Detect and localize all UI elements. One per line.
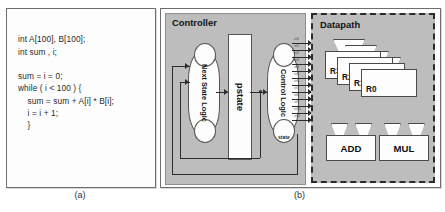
- next-state-logic-block: Next State Logic: [188, 50, 220, 136]
- wire-status-from-datapath: [297, 134, 298, 174]
- wire-feedback-inner-up: [180, 82, 181, 158]
- control-logic-label: Control Logic: [279, 69, 288, 117]
- control-signal-label: ctrl4: [294, 66, 299, 69]
- control-signal-label: ctrl7: [294, 87, 299, 90]
- source-code-listing: int A[100], B[100]; int sum , i; sum = i…: [18, 33, 114, 131]
- arrow-pstate-to-control: [263, 89, 267, 95]
- state-signal-label: state: [278, 134, 290, 140]
- arrow-feedback-outer: [185, 63, 189, 69]
- control-signal-label: ctrl5: [294, 73, 299, 76]
- functional-unit-add: ADD: [326, 135, 376, 161]
- control-signal-label: ctrl9: [294, 101, 299, 104]
- control-signal-label: ctrl0: [294, 38, 299, 41]
- caption-b: (b): [160, 190, 439, 200]
- datapath-title: Datapath: [320, 19, 360, 30]
- control-signal-label: ctrl10: [294, 108, 300, 111]
- figure-container: int A[100], B[100]; int sum , i; sum = i…: [0, 0, 445, 212]
- control-signal-label: ctrl3: [294, 59, 299, 62]
- caption-a: (a): [6, 190, 154, 200]
- pstate-label: pstate: [235, 83, 246, 111]
- control-signal-label: ctrl1: [294, 45, 299, 48]
- wire-feedback-outer-up: [172, 66, 173, 174]
- arrow-nextstate-to-pstate: [224, 89, 228, 95]
- functional-unit-mul-label: MUL: [394, 143, 415, 154]
- control-logic-block: Control Logic: [267, 50, 299, 136]
- panel-b-architecture: Controller Next State Logic pstate Contr…: [160, 8, 441, 188]
- functional-unit-mul: MUL: [379, 135, 429, 161]
- controller-block: Controller Next State Logic pstate Contr…: [165, 13, 306, 185]
- next-state-logic-label: Next State Logic: [200, 64, 209, 122]
- controller-title: Controller: [172, 17, 217, 28]
- arrow-feedback-inner: [185, 79, 189, 85]
- datapath-block: Datapath R3 R2 R1 R0 ADD: [311, 13, 435, 183]
- control-signal-label: ctrl11: [294, 115, 300, 118]
- control-signal-label: ctrl8: [294, 94, 299, 97]
- pstate-register: pstate: [228, 34, 252, 160]
- control-signal-label: ctrl2: [294, 52, 299, 55]
- functional-unit-add-label: ADD: [341, 143, 362, 154]
- wire-feedback-inner-across: [180, 158, 260, 159]
- panel-a-code: int A[100], B[100]; int sum , i; sum = i…: [6, 8, 156, 188]
- wire-feedback-outer-across: [172, 174, 298, 175]
- register-r0: R0: [361, 69, 417, 97]
- wire-feedback-inner-down: [260, 92, 261, 158]
- control-signal-label: ctrl6: [294, 80, 299, 83]
- register-r0-label: R0: [366, 85, 376, 94]
